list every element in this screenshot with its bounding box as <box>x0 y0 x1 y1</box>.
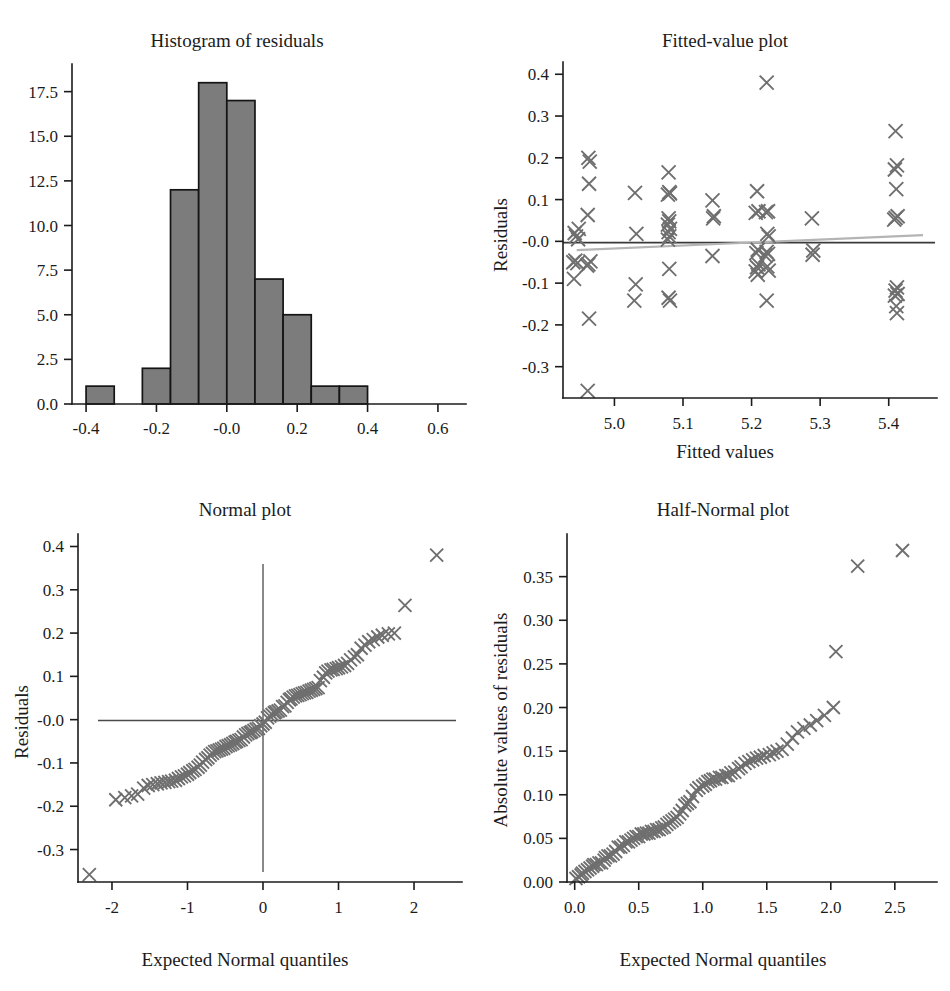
y-tick-label: 0.1 <box>528 191 549 210</box>
y-tick-label: 0.3 <box>528 107 549 126</box>
panel-half-normal: Half-Normal plot Expected Normal quantil… <box>475 470 950 991</box>
x-tick-label: 5.0 <box>604 414 625 433</box>
x-tick-label: -0.2 <box>143 419 170 438</box>
y-tick-label: -0.0 <box>37 711 64 730</box>
y-tick-label: 2.5 <box>37 350 58 369</box>
x-tick-label: 1.0 <box>692 898 713 917</box>
histogram-title: Histogram of residuals <box>150 30 323 51</box>
normal-svg: Normal plot Expected Normal quantiles Re… <box>0 470 475 991</box>
y-tick-label: 0.0 <box>37 395 58 414</box>
fitted-axes <box>555 62 937 406</box>
halfnormal-title: Half-Normal plot <box>657 499 790 520</box>
fitted-ylabel: Residuals <box>490 198 511 272</box>
x-tick-label: 0.5 <box>628 898 649 917</box>
x-tick-label: -0.4 <box>73 419 100 438</box>
x-tick-label: 5.1 <box>672 414 693 433</box>
y-tick-label: 7.5 <box>37 261 58 280</box>
halfnormal-points <box>569 544 909 885</box>
panel-fitted-value: Fitted-value plot Fitted values Residual… <box>475 0 950 470</box>
fitted-points <box>566 76 904 398</box>
y-tick-label: 0.1 <box>43 667 64 686</box>
x-tick-label: 0.2 <box>287 419 308 438</box>
y-tick-label: 15.0 <box>28 127 58 146</box>
normal-title: Normal plot <box>199 499 292 520</box>
diagnostic-plot-figure: Histogram of residuals -0.4-0.2-0.00.20.… <box>0 0 950 991</box>
y-tick-label: -0.3 <box>522 358 549 377</box>
normal-xlabel: Expected Normal quantiles <box>142 949 349 970</box>
halfnormal-xlabel: Expected Normal quantiles <box>620 949 827 970</box>
halfnormal-ylabel: Absolute values of residuals <box>490 613 511 828</box>
x-tick-label: 0.4 <box>357 419 379 438</box>
x-tick-label: 5.4 <box>878 414 900 433</box>
y-tick-label: -0.1 <box>37 754 64 773</box>
y-tick-label: 10.0 <box>28 217 58 236</box>
x-tick-label: 1 <box>334 898 343 917</box>
y-tick-label: 0.15 <box>523 742 553 761</box>
halfnormal-axes <box>559 534 937 890</box>
histogram-bar <box>283 315 311 404</box>
histogram-bar <box>171 190 199 404</box>
x-tick-label: 1.5 <box>756 898 777 917</box>
y-tick-label: 0.4 <box>43 537 65 556</box>
histogram-bar <box>86 386 114 404</box>
y-tick-label: -0.2 <box>37 797 64 816</box>
histogram-svg: Histogram of residuals -0.4-0.2-0.00.20.… <box>0 0 475 470</box>
y-tick-label: 0.25 <box>523 655 553 674</box>
fitted-xlabel: Fitted values <box>676 441 774 462</box>
y-tick-label: 0.2 <box>528 149 549 168</box>
x-tick-label: 2.5 <box>884 898 905 917</box>
histogram-bar <box>199 83 227 404</box>
y-tick-label: -0.0 <box>522 232 549 251</box>
y-tick-label: -0.1 <box>522 274 549 293</box>
histogram-bar <box>142 368 170 404</box>
y-tick-label: 0.2 <box>43 624 64 643</box>
histogram-bar <box>339 386 367 404</box>
x-tick-label: 2.0 <box>820 898 841 917</box>
panel-histogram: Histogram of residuals -0.4-0.2-0.00.20.… <box>0 0 475 470</box>
histogram-bar <box>227 101 255 404</box>
normal-tick-labels: -2-1012-0.3-0.2-0.1-0.00.10.20.30.4 <box>37 537 418 917</box>
fitted-svg: Fitted-value plot Fitted values Residual… <box>475 0 950 470</box>
fitted-title: Fitted-value plot <box>662 30 789 51</box>
normal-crosshair-lines <box>98 564 456 872</box>
x-tick-label: 5.2 <box>741 414 762 433</box>
histogram-bars <box>86 83 367 404</box>
x-tick-label: 0.6 <box>427 419 448 438</box>
x-tick-label: -0.0 <box>213 419 240 438</box>
x-tick-label: 2 <box>410 898 419 917</box>
x-tick-label: 5.3 <box>810 414 831 433</box>
y-tick-label: 0.3 <box>43 581 64 600</box>
x-tick-label: 0.0 <box>564 898 585 917</box>
y-tick-label: 0.10 <box>523 786 553 805</box>
y-tick-label: -0.3 <box>37 841 64 860</box>
y-tick-label: 0.4 <box>528 65 550 84</box>
y-tick-label: 5.0 <box>37 306 58 325</box>
y-tick-label: 0.20 <box>523 699 553 718</box>
x-tick-label: -1 <box>180 898 194 917</box>
y-tick-label: 0.00 <box>523 873 553 892</box>
y-tick-label: 0.05 <box>523 829 553 848</box>
panel-normal: Normal plot Expected Normal quantiles Re… <box>0 470 475 991</box>
halfnormal-svg: Half-Normal plot Expected Normal quantil… <box>475 470 950 991</box>
histogram-bar <box>311 386 339 404</box>
histogram-bar <box>255 279 283 404</box>
y-tick-label: 17.5 <box>28 83 58 102</box>
y-tick-label: -0.2 <box>522 316 549 335</box>
y-tick-label: 0.30 <box>523 611 553 630</box>
normal-ylabel: Residuals <box>11 685 32 759</box>
x-tick-label: 0 <box>259 898 268 917</box>
x-tick-label: -2 <box>105 898 119 917</box>
y-tick-label: 0.35 <box>523 568 553 587</box>
halfnormal-tick-labels: 0.00.51.01.52.02.50.000.050.100.150.200.… <box>523 568 905 917</box>
fitted-reference-lines <box>563 235 935 250</box>
y-tick-label: 12.5 <box>28 172 58 191</box>
